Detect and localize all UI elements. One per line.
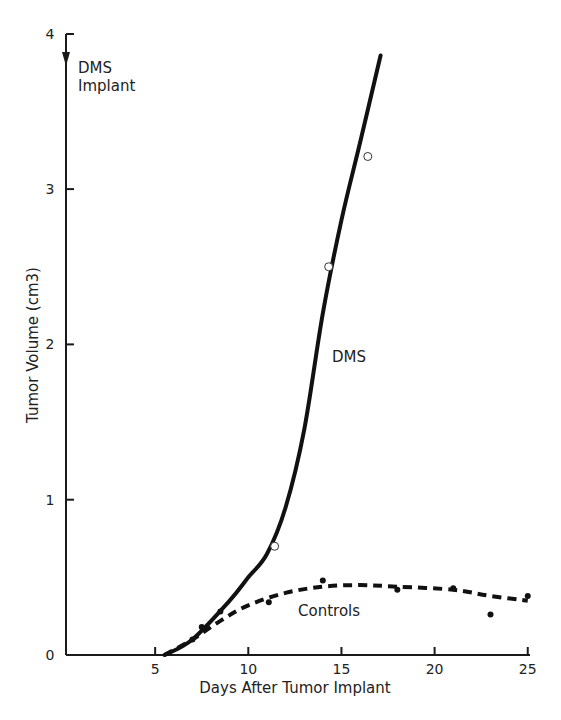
- y-tick-label: 2: [46, 336, 55, 352]
- controls-curve: [164, 585, 527, 655]
- x-tick-label: 15: [333, 661, 351, 677]
- controls-data-point: [199, 624, 205, 630]
- x-tick-label: 10: [239, 661, 257, 677]
- controls-curve-label: Controls: [298, 602, 360, 620]
- dms-data-point: [364, 152, 372, 160]
- y-tick-label: 0: [46, 647, 55, 663]
- implant-annotation-line2: Implant: [78, 77, 135, 95]
- x-axis: 510152025: [66, 647, 537, 677]
- x-axis-title: Days After Tumor Implant: [199, 679, 391, 697]
- controls-data-point: [189, 636, 195, 642]
- x-tick-label: 25: [519, 661, 537, 677]
- implant-annotation-line1: DMS: [78, 59, 112, 77]
- y-axis-title: Tumor Volume (cm3): [24, 267, 42, 424]
- controls-data-point: [487, 612, 493, 618]
- y-tick-label: 1: [46, 492, 55, 508]
- dms-data-point: [325, 263, 333, 271]
- dms-curve-label: DMS: [332, 348, 366, 366]
- controls-data-point: [525, 593, 531, 599]
- controls-data-point: [266, 599, 272, 605]
- tumor-volume-chart: 01234 510152025 DMS Implant DMS Controls…: [0, 0, 561, 720]
- controls-data-point: [394, 587, 400, 593]
- controls-data-point: [450, 585, 456, 591]
- dms-implant-arrow-icon: [62, 52, 70, 66]
- y-axis: 01234: [46, 26, 74, 663]
- y-tick-label: 4: [46, 26, 55, 42]
- controls-data-point: [320, 577, 326, 583]
- x-tick-label: 5: [151, 661, 160, 677]
- controls-data-point: [217, 609, 223, 615]
- dms-data-point: [271, 542, 279, 550]
- y-tick-label: 3: [46, 181, 55, 197]
- x-tick-label: 20: [426, 661, 444, 677]
